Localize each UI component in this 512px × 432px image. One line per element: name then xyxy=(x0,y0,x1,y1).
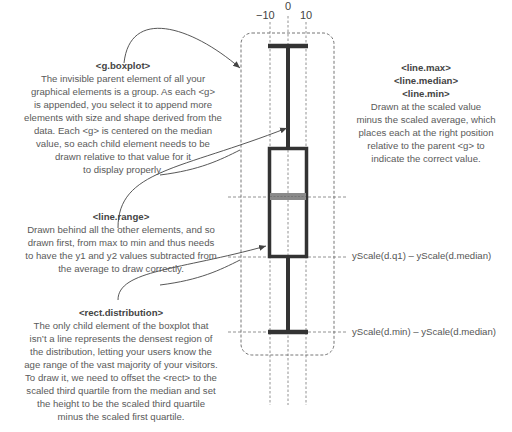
annotation-line: elements with size and shape derived fro… xyxy=(10,111,236,124)
annotation-title: <line.range> xyxy=(8,210,234,223)
annotation-line: graphical elements is a group. As each <… xyxy=(10,85,236,98)
formula-q1: yScale(d.q1) – yScale(d.median) xyxy=(352,250,491,261)
formula-min: yScale(d.min) – yScale(d.median) xyxy=(352,326,496,337)
annotation-title: <line.max> xyxy=(340,61,512,74)
annotation-g-boxplot: <g.boxplot> The invisible parent element… xyxy=(10,59,236,176)
annotation-line: the distribution, letting your users kno… xyxy=(8,345,234,358)
tick-label-minus-10: −10 xyxy=(256,9,275,21)
annotation-line: Drawn behind all the other elements, and… xyxy=(8,223,234,236)
annotation-title: <g.boxplot> xyxy=(10,59,236,72)
annotation-line: To draw it, we need to offset the <rect>… xyxy=(8,371,234,384)
annotation-line: the height to be the scaled third quarti… xyxy=(8,397,234,410)
annotation-line: drawn first, from max to min and thus ne… xyxy=(8,236,234,249)
annotation-line: scaled third quartile from the median an… xyxy=(8,384,234,397)
annotation-line: drawn relative to that value for it xyxy=(10,150,236,163)
annotation-line: to display properly. xyxy=(10,163,236,176)
annotation-title: <line.median> xyxy=(340,74,512,87)
tick-label-plus-10: 10 xyxy=(300,9,312,21)
annotation-line: age range of the vast majority of your v… xyxy=(8,358,234,371)
annotation-line: minus the scaled average, which xyxy=(340,113,512,126)
annotation-line: Drawn at the scaled value xyxy=(340,100,512,113)
annotation-line: indicate the correct value. xyxy=(340,152,512,165)
annotation-line: data. Each <g> is centered on the median xyxy=(10,124,236,137)
annotation-line: to have the y1 and y2 values subtracted … xyxy=(8,249,234,262)
annotation-line-range: <line.range> Drawn behind all the other … xyxy=(8,210,234,275)
annotation-line: minus the scaled first quartile. xyxy=(8,410,234,423)
annotation-line: is appended, you select it to append mor… xyxy=(10,98,236,111)
annotation-title: <rect.distribution> xyxy=(8,306,234,319)
annotation-line: relative to the parent <g> to xyxy=(340,139,512,152)
annotation-line-max-median-min: <line.max> <line.median> <line.min> Draw… xyxy=(340,61,512,165)
annotation-title: <line.min> xyxy=(340,87,512,100)
annotation-line: The invisible parent element of all your xyxy=(10,72,236,85)
annotation-line: value, so each child element needs to be xyxy=(10,137,236,150)
annotation-line: places each at the right position xyxy=(340,126,512,139)
tick-label-zero: 0 xyxy=(285,0,291,12)
annotation-line: the average to draw correctly. xyxy=(8,262,234,275)
annotation-line: The only child element of the boxplot th… xyxy=(8,319,234,332)
annotation-rect-distribution: <rect.distribution> The only child eleme… xyxy=(8,306,234,423)
annotation-line: isn’t a line represents the densest regi… xyxy=(8,332,234,345)
